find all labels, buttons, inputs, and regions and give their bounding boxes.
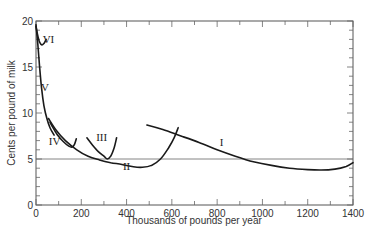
x-tick-label: 1400: [342, 208, 365, 219]
cost-curves-chart: VIVIVIIIIII 0200400600800100012001400 05…: [0, 0, 374, 241]
y-tick-label: 10: [22, 108, 34, 119]
curve-ii: [49, 119, 179, 168]
curve-label-ii: II: [123, 160, 131, 172]
curve-label-i: I: [220, 136, 224, 148]
curve-label-iii: III: [96, 131, 107, 143]
x-axis-title: Thousands of pounds per year: [126, 215, 262, 226]
curve-label-v: V: [41, 81, 49, 93]
y-tick-label: 5: [27, 154, 33, 165]
y-tick-label: 15: [22, 62, 34, 73]
curve-labels: VIVIVIIIIII: [41, 33, 224, 172]
x-tick-label: 200: [73, 208, 90, 219]
curve-label-iv: IV: [49, 135, 61, 147]
curve-label-vi: VI: [43, 33, 55, 45]
x-tick-label: 0: [33, 208, 39, 219]
x-tick-label: 1200: [297, 208, 320, 219]
plot-frame: [36, 21, 353, 205]
y-tick-label: 0: [27, 200, 33, 211]
y-tick-label: 20: [22, 16, 34, 27]
axis-ticks: [36, 21, 353, 205]
curve-i: [147, 125, 353, 170]
y-axis-title: Cents per pound of milk: [6, 59, 17, 166]
curves: [36, 25, 353, 170]
y-tick-labels: 05101520: [22, 16, 34, 211]
